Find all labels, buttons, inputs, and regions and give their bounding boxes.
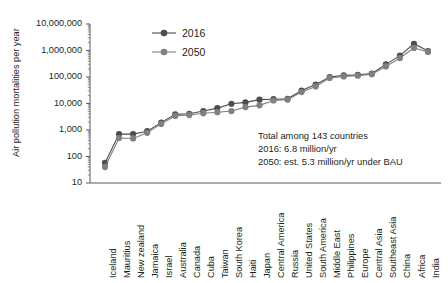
legend-label: 2050 <box>182 47 205 58</box>
x-axis-tick-label: Southeast Asia <box>389 217 398 278</box>
x-axis-tick-label: India <box>432 258 441 278</box>
x-axis-tick-label: United States <box>305 223 314 278</box>
x-axis-tick-label: New zealand <box>137 225 146 278</box>
x-axis-tick-labels: IcelandMauritiusNew zealandJamaicaIsrael… <box>0 0 448 283</box>
air-pollution-mortality-chart: Air pollution mortalities per year 10,00… <box>0 0 448 283</box>
x-axis-tick-label: Taiwan <box>221 249 230 278</box>
x-axis-tick-label: Cuba <box>207 256 216 278</box>
x-axis-tick-label: Central America <box>277 213 286 278</box>
x-axis-tick-label: Canada <box>193 246 202 278</box>
x-axis-tick-label: Central Asia <box>375 228 384 278</box>
x-axis-tick-label: Europe <box>361 248 370 278</box>
x-axis-tick-label: Russia <box>291 250 300 278</box>
x-axis-tick-label: Mauritius <box>123 241 132 278</box>
x-axis-tick-label: Iceland <box>109 248 118 278</box>
x-axis-tick-label: Jamaica <box>151 244 160 278</box>
x-axis-tick-label: Middle East <box>333 230 342 278</box>
x-axis-tick-label: Africa <box>418 255 427 279</box>
x-axis-tick-label: Haiti <box>249 260 258 278</box>
annotation-line: Total among 143 countries <box>258 131 368 140</box>
x-axis-tick-label: Israel <box>165 256 174 278</box>
x-axis-tick-label: Australia <box>179 242 188 278</box>
x-axis-tick-label: Philippines <box>347 234 356 278</box>
x-axis-tick-label: South Korea <box>235 227 244 278</box>
annotation-line: 2016: 6.8 million/yr <box>258 144 337 153</box>
annotation-line: 2050: est. 5.3 million/yr under BAU <box>258 157 403 166</box>
x-axis-tick-label: Japan <box>263 253 272 278</box>
legend-label: 2016 <box>182 28 205 39</box>
x-axis-tick-label: China <box>403 254 412 278</box>
x-axis-tick-label: South America <box>319 218 328 278</box>
